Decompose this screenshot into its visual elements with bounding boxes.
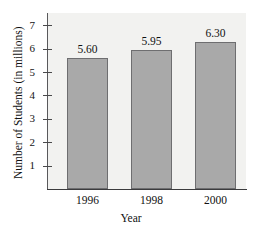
y-axis-tick [43,95,52,96]
y-axis-tick-label: 6 [30,43,36,54]
y-axis-tick-label: 7 [30,20,36,31]
x-axis-category-label: 1998 [121,195,182,207]
y-axis-tick [43,119,52,120]
y-axis-tick [43,25,52,26]
bar [131,50,172,189]
y-axis-tick [43,166,52,167]
x-axis-title: Year [0,213,262,225]
x-axis-category-label: 1996 [57,195,118,207]
bar-value-label: 6.30 [185,28,246,40]
y-axis-tick-label: 4 [30,90,36,101]
bar-value-label: 5.95 [121,36,182,48]
y-axis-tick [43,72,52,73]
y-axis-title: Number of Students (in millions) [13,10,25,196]
bar [67,58,108,189]
y-axis-tick-label: 5 [30,67,36,78]
bar [195,42,236,189]
bar-value-label: 5.60 [57,44,118,56]
y-axis-line [47,13,48,190]
bar-chart: 1234567 5.605.956.30 199619982000 Year N… [0,0,262,235]
x-axis-line [47,189,247,190]
x-axis-category-label: 2000 [185,195,246,207]
y-axis-tick [43,49,52,50]
y-axis-tick [43,142,52,143]
y-axis-tick-label: 2 [30,137,36,148]
y-axis-tick-label: 1 [30,160,36,171]
y-axis-tick-label: 3 [30,113,36,124]
